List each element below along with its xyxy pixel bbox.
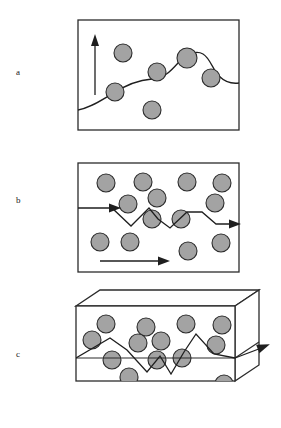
particle (213, 174, 231, 192)
panel-a-up-arrow-head (91, 34, 99, 46)
particle (148, 189, 166, 207)
particle (207, 336, 225, 354)
panel-c-box-right-face (235, 290, 259, 381)
particle (134, 173, 152, 191)
particle (178, 173, 196, 191)
panel-c-box-top-face (76, 290, 259, 306)
particle (143, 101, 161, 119)
particle (97, 174, 115, 192)
particle (179, 242, 197, 260)
particle (120, 368, 138, 386)
panel-b-bottom-arrow (100, 257, 170, 266)
particle (121, 233, 139, 251)
panel-c (76, 290, 270, 401)
figure-container: a b c (0, 0, 281, 428)
particle (91, 233, 109, 251)
particle (90, 383, 108, 401)
particle (180, 383, 198, 401)
particle (213, 316, 231, 334)
particle (114, 44, 132, 62)
panel-a-particle-group (106, 44, 220, 119)
particle (103, 351, 121, 369)
panel-label-a: a (16, 68, 20, 77)
figure-svg (0, 0, 281, 428)
particle (212, 234, 230, 252)
particle (97, 315, 115, 333)
particle (137, 318, 155, 336)
particle (106, 83, 124, 101)
particle (215, 375, 233, 393)
panel-a (78, 20, 239, 130)
panel-label-c: c (16, 350, 20, 359)
particle (177, 315, 195, 333)
particle (152, 332, 170, 350)
particle (129, 334, 147, 352)
particle (148, 63, 166, 81)
panel-b-bottom-arrow-head (158, 257, 170, 266)
particle (172, 210, 190, 228)
panel-a-clip-group (78, 44, 239, 119)
particle (206, 194, 224, 212)
panel-b-particle-group (91, 173, 231, 260)
particle (83, 331, 101, 349)
panel-a-up-arrow (91, 34, 99, 95)
panel-label-b: b (16, 196, 21, 205)
panel-b (78, 163, 241, 272)
particle (119, 195, 137, 213)
particle (202, 69, 220, 87)
particle (177, 48, 197, 68)
